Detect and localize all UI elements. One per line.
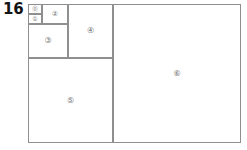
square-3 bbox=[28, 24, 68, 58]
square-1 bbox=[28, 14, 42, 24]
square-0 bbox=[28, 4, 42, 14]
square-2 bbox=[42, 4, 68, 24]
square-6 bbox=[113, 4, 241, 143]
figure-container: 16 ⓪①②③④⑤⑥ bbox=[0, 0, 247, 150]
square-5 bbox=[28, 58, 113, 143]
diagram-canvas: ⓪①②③④⑤⑥ bbox=[0, 0, 247, 150]
square-4 bbox=[68, 4, 113, 58]
